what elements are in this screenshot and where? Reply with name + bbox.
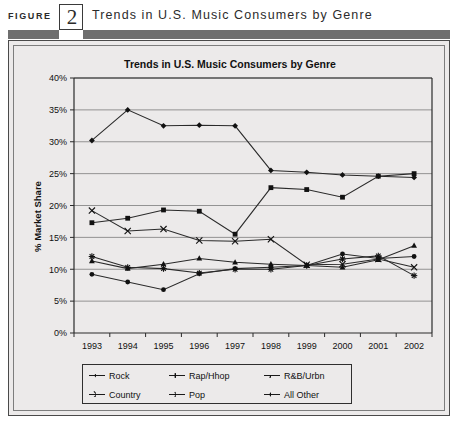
- legend-label: Rap/Hhop: [189, 371, 230, 381]
- x-tick-label: 1995: [153, 341, 173, 351]
- dot-marker-icon: [264, 390, 280, 399]
- cross-marker-icon: [89, 390, 105, 399]
- figure-header: FIGURE 2 Trends in U.S. Music Consumers …: [0, 2, 458, 34]
- x-tick-label: 1996: [189, 341, 209, 351]
- series-all-other: [90, 252, 417, 292]
- x-tick-label: 1998: [261, 341, 281, 351]
- legend-item-rap-hhop[interactable]: Rap/Hhop: [169, 371, 264, 381]
- square-marker-icon: [169, 371, 185, 380]
- figure-title: Trends in U.S. Music Consumers by Genre: [92, 8, 373, 22]
- x-tick-label: 1994: [118, 341, 138, 351]
- legend-item-pop[interactable]: Pop: [169, 390, 264, 400]
- star-marker-icon: [169, 390, 185, 399]
- chart-panel: Trends in U.S. Music Consumers by Genre …: [8, 40, 450, 416]
- y-tick-label: 10%: [49, 265, 67, 275]
- y-tick-label: 0%: [54, 328, 67, 338]
- figure-number-box: 2: [59, 4, 83, 30]
- legend-label: Rock: [109, 371, 130, 381]
- legend-label: R&B/Urbn: [284, 371, 325, 381]
- legend-label: All Other: [284, 390, 319, 400]
- y-tick-label: 30%: [49, 137, 67, 147]
- y-tick-label: 25%: [49, 169, 67, 179]
- series-rap-hhop: [90, 171, 417, 236]
- series-pop: [89, 253, 418, 279]
- x-tick-label: 2000: [332, 341, 352, 351]
- legend-label: Country: [109, 390, 141, 400]
- x-tick-label: 1999: [297, 341, 317, 351]
- plot-area: 0%5%10%15%20%25%30%35%40%199319941995199…: [14, 46, 446, 412]
- chart-panel-inner: Trends in U.S. Music Consumers by Genre …: [13, 45, 445, 411]
- series-country: [89, 208, 417, 271]
- figure-page: FIGURE 2 Trends in U.S. Music Consumers …: [0, 0, 458, 426]
- figure-number: 2: [60, 4, 84, 31]
- y-tick-label: 35%: [49, 105, 67, 115]
- chart-legend: RockRap/HhopR&B/UrbnCountryPopAll Other: [82, 364, 352, 404]
- legend-item-rock[interactable]: Rock: [89, 371, 169, 381]
- x-tick-label: 1993: [82, 341, 102, 351]
- y-tick-label: 5%: [54, 296, 67, 306]
- x-tick-label: 2002: [404, 341, 424, 351]
- diamond-marker-icon: [89, 371, 105, 380]
- y-tick-label: 40%: [49, 73, 67, 83]
- legend-item-country[interactable]: Country: [89, 390, 169, 400]
- line-chart-svg: 0%5%10%15%20%25%30%35%40%199319941995199…: [14, 46, 446, 412]
- legend-item-r-b-urbn[interactable]: R&B/Urbn: [264, 371, 359, 381]
- legend-item-all-other[interactable]: All Other: [264, 390, 359, 400]
- triangle-marker-icon: [264, 371, 280, 380]
- series-rock: [89, 107, 417, 180]
- header-rule-gap: [59, 30, 83, 39]
- y-tick-label: 20%: [49, 201, 67, 211]
- x-tick-label: 2001: [368, 341, 388, 351]
- legend-label: Pop: [189, 390, 205, 400]
- x-tick-label: 1997: [225, 341, 245, 351]
- figure-label: FIGURE: [8, 11, 52, 21]
- y-tick-label: 15%: [49, 233, 67, 243]
